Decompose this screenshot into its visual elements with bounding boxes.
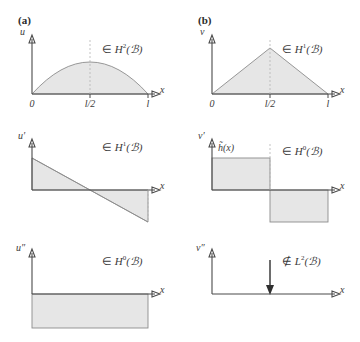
- y-axis-label-v-prime: v′: [198, 130, 205, 141]
- space-label-u-prime: ∈ H1(ℬ): [102, 140, 143, 154]
- space-label-u: ∈ H2(ℬ): [102, 42, 143, 56]
- plot-u-prime: u′ x ∈ H1(ℬ): [0, 128, 180, 223]
- step-negative-block: [270, 190, 328, 222]
- space-name: H: [115, 43, 123, 55]
- plot-v-prime: v′ x h̃(x) ∈ H0(ℬ): [180, 128, 360, 223]
- tick-label-half: l/2: [258, 98, 282, 109]
- membership-symbol: ∈: [102, 255, 112, 267]
- plot-v-double-prime-svg: [180, 240, 360, 340]
- plot-v-double-prime: v″ x ∉ L2(ℬ): [180, 240, 360, 340]
- x-axis-label-u: x: [160, 84, 164, 95]
- plot-v: v x 0 l/2 l ∈ H1(ℬ): [180, 22, 360, 112]
- y-axis-label-u-double-prime: u″: [16, 242, 25, 253]
- space-domain: (ℬ): [304, 255, 320, 267]
- plot-v-prime-svg: [180, 128, 360, 223]
- space-domain: (ℬ): [126, 141, 142, 153]
- non-membership-symbol: ∉: [282, 255, 292, 267]
- space-domain: (ℬ): [126, 43, 142, 55]
- x-axis-label-v: x: [340, 84, 344, 95]
- x-axis-label-u-prime: x: [160, 180, 164, 191]
- tick-label-l: l: [320, 98, 336, 109]
- membership-symbol: ∈: [102, 43, 112, 55]
- space-label-v: ∈ H1(ℬ): [282, 42, 323, 56]
- plot-u-double-prime-svg: [0, 240, 180, 340]
- y-axis-label-v-double-prime: v″: [196, 242, 205, 253]
- tick-label-l: l: [140, 98, 156, 109]
- space-domain: (ℬ): [306, 145, 322, 157]
- plot-u-prime-svg: [0, 128, 180, 223]
- space-name: H: [115, 141, 123, 153]
- membership-symbol: ∈: [282, 43, 292, 55]
- sobolev-regularity-figure: (a) u x 0 l/2 l ∈ H2(ℬ) u′ x: [0, 0, 360, 342]
- space-domain: (ℬ): [126, 255, 142, 267]
- plot-u: u x 0 l/2 l ∈ H2(ℬ): [0, 22, 180, 112]
- tick-label-0: 0: [22, 98, 42, 109]
- constant-negative-rect: [32, 294, 148, 328]
- plot-u-double-prime: u″ x ∈ H0(ℬ): [0, 240, 180, 340]
- x-axis-label-v-double-prime: x: [340, 284, 344, 295]
- step-function-label: h̃(x): [218, 142, 234, 153]
- space-name: H: [115, 255, 123, 267]
- space-label-v-prime: ∈ H0(ℬ): [282, 144, 323, 158]
- space-domain: (ℬ): [306, 43, 322, 55]
- membership-symbol: ∈: [102, 141, 112, 153]
- space-label-v-double-prime: ∉ L2(ℬ): [282, 254, 321, 268]
- x-axis-label-v-prime: x: [340, 180, 344, 191]
- y-axis-label-v: v: [200, 26, 204, 37]
- tick-label-half: l/2: [78, 98, 102, 109]
- space-name: H: [295, 145, 303, 157]
- space-label-u-double-prime: ∈ H0(ℬ): [102, 254, 143, 268]
- space-name: H: [295, 43, 303, 55]
- x-axis-label-u-double-prime: x: [160, 284, 164, 295]
- tick-label-0: 0: [202, 98, 222, 109]
- y-axis-label-u-prime: u′: [18, 130, 25, 141]
- y-axis-label-u: u: [20, 26, 25, 37]
- membership-symbol: ∈: [282, 145, 292, 157]
- step-positive-block: [212, 158, 270, 190]
